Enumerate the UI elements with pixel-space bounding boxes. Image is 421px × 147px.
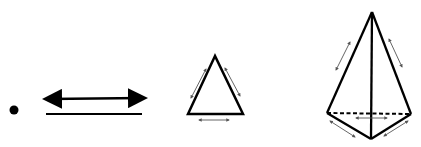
triangle-figure	[188, 56, 243, 120]
dimension-diagram	[0, 0, 421, 147]
line-figure	[46, 98, 143, 114]
point-figure	[10, 106, 19, 115]
tetrahedron-figure	[327, 12, 411, 139]
double-arrow	[47, 98, 143, 99]
